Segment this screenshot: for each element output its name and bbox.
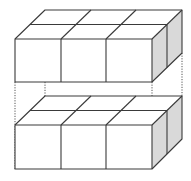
bottom-block xyxy=(15,96,182,169)
front-face xyxy=(15,125,152,169)
front-face xyxy=(15,39,152,82)
cube-stack-diagram xyxy=(0,0,191,181)
top-block xyxy=(15,10,182,82)
